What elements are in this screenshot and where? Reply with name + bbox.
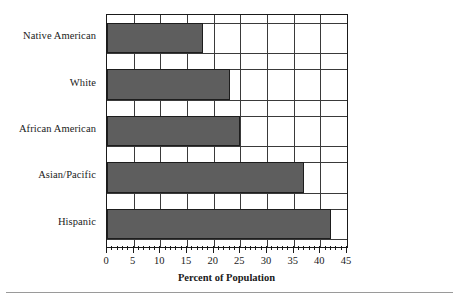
x-tick-minor <box>325 246 326 250</box>
x-tick-major <box>239 246 240 253</box>
x-tick-minor <box>277 246 278 250</box>
x-tick-major <box>133 246 134 253</box>
x-tick-minor <box>298 246 299 250</box>
x-tick-major <box>213 246 214 253</box>
x-tick-label-30: 30 <box>261 255 272 266</box>
x-tick-minor <box>165 246 166 250</box>
bar-white <box>107 69 230 99</box>
x-tick-minor <box>202 246 203 250</box>
x-tick-minor <box>314 246 315 250</box>
bar-chart-figure: Native AmericanWhiteAfrican AmericanAsia… <box>0 0 459 301</box>
x-tick-label-20: 20 <box>207 255 218 266</box>
x-tick-minor <box>218 246 219 250</box>
x-tick-minor <box>261 246 262 250</box>
x-tick-major <box>346 246 347 253</box>
category-label-white: White <box>0 77 96 88</box>
x-tick-minor <box>223 246 224 250</box>
gridline-horizontal <box>107 100 347 101</box>
x-tick-major <box>319 246 320 253</box>
x-axis-ticks <box>106 246 347 255</box>
x-tick-minor <box>170 246 171 250</box>
plot-area <box>106 14 348 248</box>
x-tick-minor <box>287 246 288 250</box>
x-tick-minor <box>234 246 235 250</box>
x-tick-minor <box>309 246 310 250</box>
x-tick-minor <box>255 246 256 250</box>
category-label-asian-pacific: Asian/Pacific <box>0 169 96 180</box>
x-tick-minor <box>181 246 182 250</box>
x-tick-minor <box>335 246 336 250</box>
x-tick-major <box>266 246 267 253</box>
x-tick-label-45: 45 <box>341 255 352 266</box>
x-tick-minor <box>341 246 342 250</box>
bar-asian-pacific <box>107 162 304 192</box>
x-tick-minor <box>154 246 155 250</box>
x-tick-minor <box>197 246 198 250</box>
x-tick-minor <box>149 246 150 250</box>
x-tick-label-10: 10 <box>154 255 165 266</box>
x-tick-minor <box>122 246 123 250</box>
bar-native-american <box>107 23 203 53</box>
x-tick-label-40: 40 <box>314 255 325 266</box>
x-tick-label-15: 15 <box>181 255 192 266</box>
x-tick-minor <box>138 246 139 250</box>
x-tick-minor <box>143 246 144 250</box>
x-tick-minor <box>250 246 251 250</box>
gridline-horizontal <box>107 193 347 194</box>
x-tick-major <box>186 246 187 253</box>
x-tick-minor <box>111 246 112 250</box>
category-label-hispanic: Hispanic <box>0 216 96 227</box>
category-label-native-american: Native American <box>0 30 96 41</box>
bar-african-american <box>107 116 240 146</box>
x-tick-label-35: 35 <box>287 255 298 266</box>
gridline-horizontal <box>107 53 347 54</box>
x-tick-major <box>106 246 107 253</box>
x-tick-label-0: 0 <box>103 255 108 266</box>
gridline-horizontal <box>107 146 347 147</box>
x-tick-label-5: 5 <box>130 255 135 266</box>
x-tick-minor <box>282 246 283 250</box>
x-tick-minor <box>117 246 118 250</box>
category-label-african-american: African American <box>0 123 96 134</box>
x-tick-minor <box>330 246 331 250</box>
bar-hispanic <box>107 209 331 239</box>
x-tick-minor <box>229 246 230 250</box>
figure-bottom-rule <box>6 292 453 293</box>
x-tick-minor <box>271 246 272 250</box>
x-tick-minor <box>127 246 128 250</box>
gridline-horizontal <box>107 239 347 240</box>
x-tick-major <box>293 246 294 253</box>
x-tick-major <box>159 246 160 253</box>
x-tick-minor <box>245 246 246 250</box>
x-tick-label-25: 25 <box>234 255 245 266</box>
x-tick-minor <box>175 246 176 250</box>
plot-inner <box>107 15 347 247</box>
x-axis-title: Percent of Population <box>106 272 347 283</box>
x-tick-minor <box>207 246 208 250</box>
x-tick-minor <box>191 246 192 250</box>
x-tick-minor <box>303 246 304 250</box>
category-axis-labels: Native AmericanWhiteAfrican AmericanAsia… <box>0 14 104 246</box>
x-axis-tick-labels: 051015202530354045 <box>106 255 347 271</box>
